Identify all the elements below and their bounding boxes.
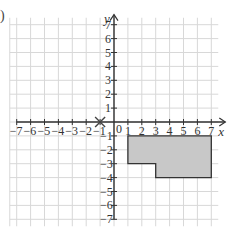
x-tick-label: −6 xyxy=(24,124,37,138)
y-tick-label: −5 xyxy=(100,185,113,199)
x-tick-label: −5 xyxy=(38,124,51,138)
y-tick-label: 6 xyxy=(105,32,111,46)
y-tick-label: −3 xyxy=(100,157,113,171)
y-tick-label: 3 xyxy=(105,73,111,87)
y-tick-label: −4 xyxy=(100,171,113,185)
y-axis-label: y xyxy=(102,11,110,26)
x-tick-label: −3 xyxy=(65,124,78,138)
x-tick-label: −4 xyxy=(51,124,64,138)
x-tick-label: −2 xyxy=(79,124,92,138)
y-tick-label: 2 xyxy=(105,87,111,101)
x-tick-label: 3 xyxy=(153,124,159,138)
y-tick-label: 4 xyxy=(105,59,111,73)
x-tick-label: 6 xyxy=(194,124,200,138)
y-tick-label: −7 xyxy=(100,212,113,226)
shaded-shape xyxy=(128,136,211,178)
x-tick-label: 4 xyxy=(167,124,173,138)
y-tick-label: 1 xyxy=(105,101,111,115)
x-tick-label: 1 xyxy=(125,124,131,138)
y-tick-label: −1 xyxy=(100,129,113,143)
y-tick-label: −6 xyxy=(100,198,113,212)
y-tick-label: −2 xyxy=(100,143,113,157)
x-tick-label: 2 xyxy=(139,124,145,138)
x-tick-label: 7 xyxy=(208,124,214,138)
coordinate-grid-chart: −7−6−5−4−3−2−11234567−7−6−5−4−3−2−112345… xyxy=(0,0,229,234)
origin-label: 0 xyxy=(116,122,122,136)
x-axis-label: x xyxy=(217,124,224,139)
x-tick-label: −7 xyxy=(10,124,23,138)
y-tick-label: 5 xyxy=(105,46,111,60)
x-tick-label: 5 xyxy=(181,124,187,138)
